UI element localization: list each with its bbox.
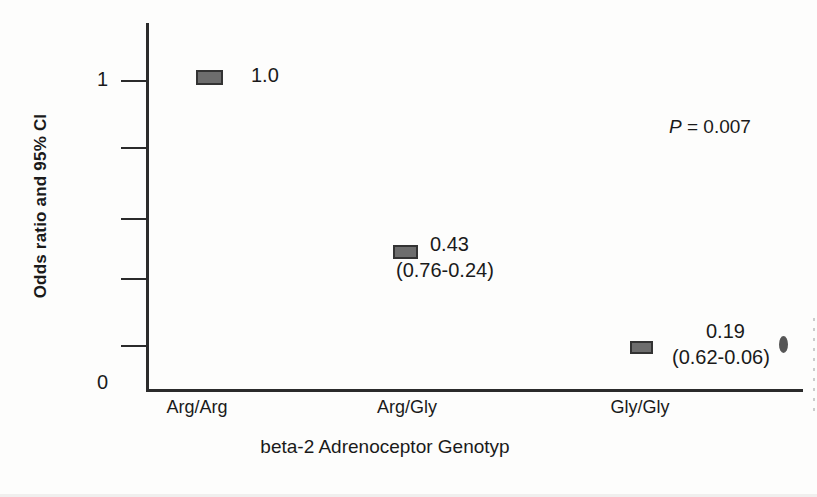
- y-axis-tick-1: [121, 80, 148, 82]
- ci-label-gly-gly: (0.62-0.06): [672, 346, 770, 369]
- data-marker-gly-gly: [630, 341, 653, 354]
- x-axis-line: [147, 389, 803, 392]
- p-value-number: = 0.007: [682, 116, 751, 137]
- p-value-symbol: P: [669, 116, 682, 137]
- y-axis-line: [146, 23, 149, 392]
- x-tick-label-arg-arg: Arg/Arg: [127, 397, 267, 418]
- y-tick-label-bottom: 0: [68, 371, 108, 394]
- scan-artifact-right: [813, 318, 815, 414]
- data-marker-arg-gly: [393, 245, 418, 259]
- y-axis-tick-5: [121, 345, 148, 347]
- y-axis-tick-3: [121, 218, 148, 220]
- value-label-arg-gly: 0.43: [430, 233, 469, 255]
- data-marker-arg-arg: [196, 70, 223, 85]
- ci-label-arg-gly: (0.76-0.24): [396, 259, 494, 282]
- y-axis-tick-2: [121, 147, 148, 149]
- y-axis-tick-4: [121, 278, 148, 280]
- value-label-gly-gly: 0.19: [706, 320, 745, 342]
- x-tick-label-gly-gly: Gly/Gly: [570, 397, 710, 418]
- x-axis-title: beta-2 Adrenoceptor Genotyp: [150, 436, 620, 458]
- y-axis-title: Odds ratio and 95% CI: [31, 76, 51, 336]
- y-tick-label-top: 1: [68, 68, 108, 91]
- odds-ratio-chart: 1 0 Odds ratio and 95% CI 1.0 0.43 (0.76…: [0, 0, 817, 497]
- x-tick-label-arg-gly: Arg/Gly: [337, 397, 477, 418]
- value-label-arg-arg: 1.0: [251, 64, 279, 86]
- p-value-annotation: P = 0.007: [669, 116, 751, 138]
- scan-artifact-blob: [779, 336, 788, 353]
